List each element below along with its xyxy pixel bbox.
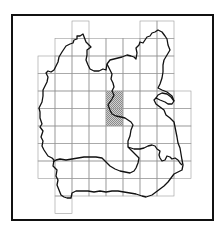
grid-cell (55, 144, 72, 162)
grid-cell (123, 144, 140, 162)
grid-cell (106, 179, 123, 197)
grid-cell (106, 126, 123, 144)
grid-cell (72, 126, 89, 144)
grid-cell (38, 161, 55, 179)
grid-cell (89, 126, 106, 144)
grid-cell (157, 39, 174, 57)
grid-cell (55, 109, 72, 127)
grid-cell (157, 179, 174, 197)
grid-cell (106, 74, 123, 92)
grid-cell (106, 161, 123, 179)
grid-cell (89, 179, 106, 197)
grid-cell (123, 56, 140, 74)
grid-cell (123, 74, 140, 92)
grid-cell (55, 56, 72, 74)
grid-cell (123, 91, 140, 109)
inner-boundary-central (53, 64, 139, 173)
grid-cell (72, 161, 89, 179)
grid-cell (106, 144, 123, 162)
grid-cell (174, 109, 191, 127)
grid-cell (89, 109, 106, 127)
grid-cell (72, 179, 89, 197)
grid-cell (157, 109, 174, 127)
grid-cell (89, 91, 106, 109)
grid-map (0, 0, 224, 236)
grid-cell (140, 56, 157, 74)
grid-cell (174, 91, 191, 109)
grid-cell (72, 91, 89, 109)
grid-cell (157, 126, 174, 144)
grid-cell (89, 161, 106, 179)
grid-cell (140, 161, 157, 179)
grid-cell (55, 74, 72, 92)
grid-cell (55, 91, 72, 109)
grid-cell (55, 126, 72, 144)
grid-cell (157, 161, 174, 179)
grid-cell (72, 74, 89, 92)
grid-cell (72, 109, 89, 127)
grid-cell (106, 39, 123, 57)
grid-cell (140, 74, 157, 92)
grid-cell (89, 74, 106, 92)
grid-cell (140, 39, 157, 57)
grid-cell (140, 126, 157, 144)
grid-cell (89, 144, 106, 162)
grid-cell (140, 109, 157, 127)
grid-cell (55, 39, 72, 57)
